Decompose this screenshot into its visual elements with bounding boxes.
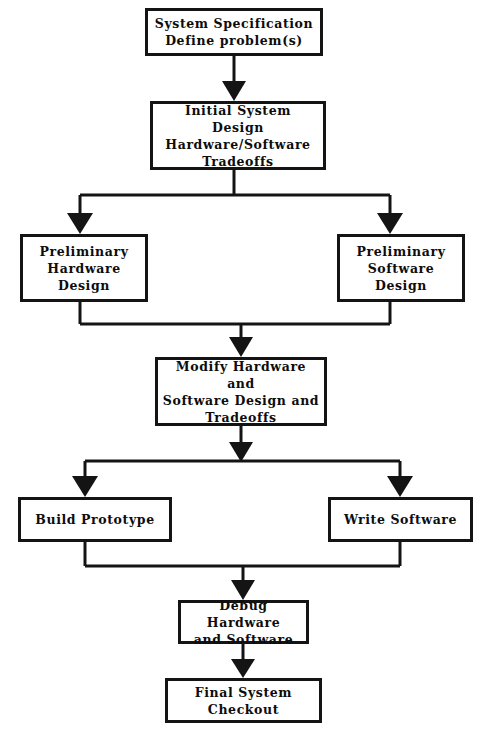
node-label: Debug Hardware and Software <box>181 597 306 648</box>
edge-spec-to-initial <box>222 56 246 101</box>
node-preliminary-hardware-design: Preliminary Hardware Design <box>20 234 148 302</box>
edge-prelim-merge <box>80 302 390 357</box>
node-label: Modify Hardware and Software Design and … <box>158 358 324 426</box>
arrowhead-to-prelim-software <box>377 213 403 234</box>
node-label: System Specification Define problem(s) <box>151 15 318 49</box>
node-final-system-checkout: Final System Checkout <box>165 678 322 723</box>
arrowhead-to-final <box>231 659 255 678</box>
node-debug-hardware-software: Debug Hardware and Software <box>178 600 309 644</box>
node-modify-hardware-software: Modify Hardware and Software Design and … <box>155 357 327 426</box>
edge-modify-split <box>72 426 413 497</box>
node-label: Write Software <box>340 511 461 528</box>
node-preliminary-software-design: Preliminary Software Design <box>337 234 465 302</box>
node-system-specification: System Specification Define problem(s) <box>145 8 323 56</box>
flowchart-diagram: System Specification Define problem(s) I… <box>0 0 486 741</box>
arrowhead-to-write-software <box>387 476 413 497</box>
arrowhead-to-modify <box>229 337 253 357</box>
node-build-prototype: Build Prototype <box>18 497 172 542</box>
node-label: Build Prototype <box>31 511 158 528</box>
node-initial-system-design: Initial System Design Hardware/Software … <box>150 101 326 170</box>
node-write-software: Write Software <box>328 497 473 542</box>
node-label: Preliminary Hardware Design <box>35 243 132 294</box>
arrowhead-to-build-prototype <box>72 476 98 497</box>
node-label: Preliminary Software Design <box>352 243 449 294</box>
node-label: Final System Checkout <box>191 684 296 718</box>
node-label: Initial System Design Hardware/Software … <box>153 102 323 170</box>
edge-initial-split <box>67 170 403 234</box>
arrowhead-to-prelim-hardware <box>67 213 93 234</box>
edge-debug-to-final <box>231 644 255 678</box>
arrowhead-modify-down <box>229 442 253 462</box>
edge-build-write-merge <box>85 542 400 600</box>
